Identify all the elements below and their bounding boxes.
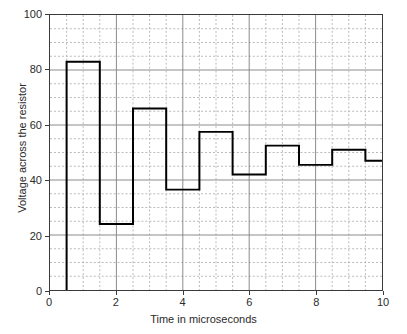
y-tick-mark bbox=[45, 125, 49, 126]
x-tick-label: 4 bbox=[180, 296, 186, 308]
plot-area bbox=[49, 14, 383, 291]
x-tick-mark bbox=[183, 291, 184, 295]
chart-figure: 020406080100 0246810 Time in microsecond… bbox=[0, 0, 407, 334]
y-tick-mark bbox=[45, 180, 49, 181]
x-tick-mark bbox=[116, 291, 117, 295]
y-tick-mark bbox=[45, 236, 49, 237]
voltage-step-series bbox=[50, 15, 382, 290]
x-tick-mark bbox=[316, 291, 317, 295]
x-tick-label: 6 bbox=[246, 296, 252, 308]
y-axis-title: Voltage across the resistor bbox=[16, 58, 28, 238]
x-tick-mark bbox=[383, 291, 384, 295]
x-tick-label: 0 bbox=[46, 296, 52, 308]
y-tick-mark bbox=[45, 69, 49, 70]
x-tick-label: 8 bbox=[313, 296, 319, 308]
x-tick-label: 10 bbox=[377, 296, 389, 308]
x-tick-mark bbox=[249, 291, 250, 295]
y-tick-mark bbox=[45, 14, 49, 15]
x-tick-label: 2 bbox=[113, 296, 119, 308]
y-tick-label: 0 bbox=[0, 285, 42, 297]
x-tick-mark bbox=[49, 291, 50, 295]
y-tick-label: 100 bbox=[0, 8, 42, 20]
x-axis-title: Time in microseconds bbox=[0, 313, 407, 325]
